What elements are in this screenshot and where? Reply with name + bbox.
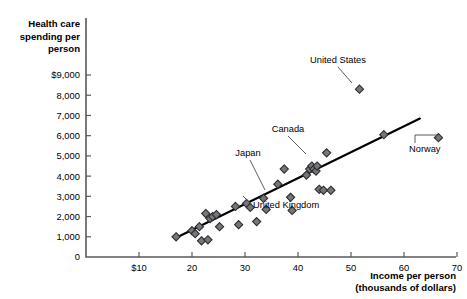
x-tick-label: 40: [293, 262, 303, 273]
axis-lines: [86, 18, 456, 257]
health-spending-scatter-chart: 01,0002,0003,0004,0005,0006,0007,0008,00…: [0, 0, 467, 299]
y-axis-title-line: person: [48, 43, 80, 54]
data-point-marker[interactable]: [253, 218, 261, 226]
data-point-marker[interactable]: [327, 186, 335, 194]
y-tick-label: 8,000: [57, 90, 80, 101]
x-tick-label: 50: [346, 262, 356, 273]
annotation-leader-line: [250, 160, 265, 190]
y-axis-title-line: spending per: [20, 31, 80, 42]
y-tick-label: 5,000: [57, 150, 80, 161]
data-point-marker[interactable]: [280, 165, 288, 173]
data-point-marker[interactable]: [355, 85, 363, 93]
y-tick-label: 2,000: [57, 211, 80, 222]
x-axis-title-line: Income per person: [370, 270, 456, 281]
x-axis-title-line: (thousands of dollars): [355, 282, 456, 293]
x-tick-label: $10: [131, 262, 147, 273]
y-axis-title-line: Health care: [28, 18, 80, 29]
y-tick-label: 1,000: [57, 231, 80, 242]
data-point-marker[interactable]: [215, 223, 223, 231]
annotation-label: United States: [310, 55, 366, 65]
data-point-marker[interactable]: [172, 233, 180, 241]
y-tick-label: 0: [75, 251, 80, 262]
y-tick-label: $9,000: [51, 69, 80, 80]
data-point-marker[interactable]: [235, 221, 243, 229]
annotation-label: Japan: [235, 148, 260, 158]
annotation-label: Canada: [272, 124, 305, 134]
data-point-marker[interactable]: [323, 149, 331, 157]
data-point-marker[interactable]: [195, 223, 203, 231]
annotation-label: Norway: [409, 144, 441, 154]
x-tick-label: 20: [187, 262, 197, 273]
y-tick-label: 6,000: [57, 130, 80, 141]
plot-area: 01,0002,0003,0004,0005,0006,0007,0008,00…: [0, 0, 467, 299]
data-point-marker[interactable]: [204, 236, 212, 244]
annotation-leader-line: [415, 135, 437, 143]
annotation-label: United Kingdom: [253, 200, 319, 210]
annotation-leader-line: [338, 67, 352, 83]
annotation-leader-line: [288, 136, 306, 154]
y-tick-label: 3,000: [57, 191, 80, 202]
x-tick-label: 30: [240, 262, 250, 273]
y-tick-label: 7,000: [57, 110, 80, 121]
y-tick-label: 4,000: [57, 171, 80, 182]
